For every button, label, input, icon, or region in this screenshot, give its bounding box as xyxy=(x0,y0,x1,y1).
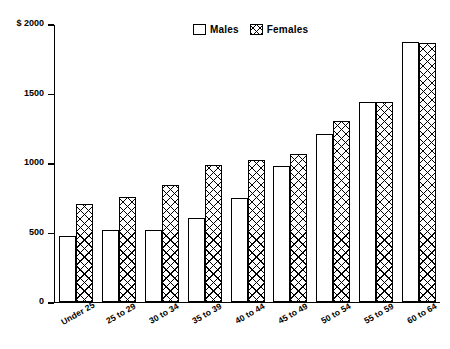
x-axis-category-label: 25 to 29 xyxy=(105,301,138,326)
y-axis-tick: 500 xyxy=(48,233,54,234)
bar-groups xyxy=(55,25,440,302)
x-axis-category-label: 60 to 64 xyxy=(405,301,438,326)
bar-group xyxy=(397,25,440,302)
bar-group xyxy=(354,25,397,302)
y-axis-tick: 1500 xyxy=(48,94,54,95)
x-axis-label-cell: 25 to 29 xyxy=(98,305,141,349)
bar-females-8 xyxy=(419,43,436,302)
x-axis-label-cell: 55 to 59 xyxy=(355,305,398,349)
bar-group xyxy=(269,25,312,302)
x-axis-label-cell: Under 25 xyxy=(55,305,98,349)
y-axis-tick-label: 1000 xyxy=(24,157,44,167)
bar-males-6 xyxy=(316,134,333,302)
bar-group xyxy=(55,25,98,302)
bar-females-6 xyxy=(333,121,350,302)
bar-group xyxy=(312,25,355,302)
bar-females-5 xyxy=(290,154,307,301)
bar-males-8 xyxy=(402,42,419,301)
bar-group xyxy=(141,25,184,302)
y-axis-tick-label: 1500 xyxy=(24,88,44,98)
y-axis-tick: $ 2000 xyxy=(48,24,54,25)
x-axis-category-label: 45 to 49 xyxy=(276,301,309,326)
y-axis-tick-label: $ 2000 xyxy=(16,18,44,28)
x-axis-category-label: 35 to 39 xyxy=(190,301,223,326)
x-axis-category-labels: Under 2525 to 2930 to 3435 to 3940 to 44… xyxy=(55,305,441,349)
y-axis-tick-label: 500 xyxy=(29,227,44,237)
x-axis-category-label: 30 to 34 xyxy=(148,301,181,326)
y-axis-tick-label: 0 xyxy=(39,296,44,306)
x-axis-category-label: 50 to 54 xyxy=(319,301,352,326)
bar-group xyxy=(226,25,269,302)
bar-females-7 xyxy=(376,102,393,302)
bar-males-2 xyxy=(145,230,162,302)
bar-males-4 xyxy=(231,198,248,302)
bar-group xyxy=(98,25,141,302)
x-axis-label-cell: 45 to 49 xyxy=(269,305,312,349)
bar-males-5 xyxy=(273,166,290,302)
x-axis-category-label: Under 25 xyxy=(60,300,97,327)
bar-chart: Males Females $ 2000150010005000 Under 2… xyxy=(0,0,450,349)
x-axis-label-cell: 60 to 64 xyxy=(398,305,441,349)
bar-males-0 xyxy=(59,236,76,301)
x-axis-line xyxy=(54,302,440,303)
bar-males-1 xyxy=(102,230,119,302)
x-axis-label-cell: 50 to 54 xyxy=(312,305,355,349)
bar-females-4 xyxy=(248,160,265,302)
plot-area: $ 2000150010005000 xyxy=(54,25,440,303)
bar-females-2 xyxy=(162,185,179,302)
bar-females-1 xyxy=(119,197,136,301)
x-axis-label-cell: 35 to 39 xyxy=(184,305,227,349)
x-axis-category-label: 55 to 59 xyxy=(362,301,395,326)
bar-females-0 xyxy=(76,204,93,301)
x-axis-category-label: 40 to 44 xyxy=(233,301,266,326)
x-axis-label-cell: 30 to 34 xyxy=(141,305,184,349)
bar-females-3 xyxy=(205,165,222,301)
y-axis-tick: 0 xyxy=(48,302,54,303)
y-axis-tick: 1000 xyxy=(48,163,54,164)
bar-males-3 xyxy=(188,218,205,302)
bar-males-7 xyxy=(359,102,376,302)
bar-group xyxy=(183,25,226,302)
x-axis-label-cell: 40 to 44 xyxy=(227,305,270,349)
